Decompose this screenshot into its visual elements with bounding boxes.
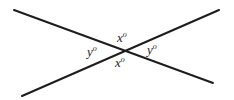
angle-label-bottom: xo xyxy=(115,56,125,69)
degree-symbol-icon: o xyxy=(153,42,157,51)
vertical-angles-figure: xo yo yo xo xyxy=(0,0,234,100)
angle-label-right: yo xyxy=(147,43,157,56)
degree-symbol-icon: o xyxy=(121,55,125,64)
angle-label-top: xo xyxy=(117,31,127,44)
figure-background xyxy=(0,0,234,100)
angle-label-left: yo xyxy=(87,45,97,58)
diagram-canvas xyxy=(0,0,234,100)
degree-symbol-icon: o xyxy=(123,30,127,39)
degree-symbol-icon: o xyxy=(93,44,97,53)
